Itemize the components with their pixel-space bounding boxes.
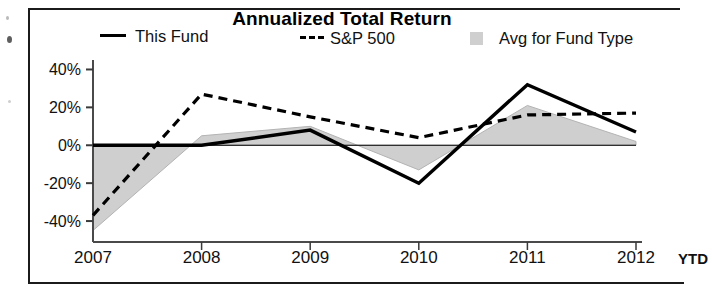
bottom-rule <box>28 282 684 284</box>
x-tick-label: 2009 <box>291 248 329 268</box>
legend-item-sp-500: S&P 500 <box>300 29 395 48</box>
svg-text:40%: 40% <box>49 61 81 78</box>
svg-text:0%: 0% <box>58 137 81 154</box>
svg-text:-40%: -40% <box>44 213 81 230</box>
scan-artifact-dot <box>8 100 11 103</box>
x-tick-label: 2012 <box>617 248 655 268</box>
x-tick-label: 2008 <box>183 248 221 268</box>
legend-label-avg-for-fund-type: Avg for Fund Type <box>499 29 633 48</box>
chart-legend: This Fund S&P 500 Avg for Fund Type <box>30 27 684 51</box>
dashed-line-swatch-icon <box>300 36 324 39</box>
plot-area: 40%20%0%-20%-40% <box>30 52 684 252</box>
svg-text:-20%: -20% <box>44 175 81 192</box>
x-axis-labels: 200720082009201020112012YTD <box>30 248 684 278</box>
svg-text:20%: 20% <box>49 99 81 116</box>
x-axis-ytd-label: YTD <box>678 250 712 267</box>
x-tick-label: 2007 <box>74 248 112 268</box>
x-tick-label: 2011 <box>509 248 546 268</box>
y-tick-labels: 40%20%0%-20%-40% <box>44 61 81 230</box>
gray-square-swatch-icon <box>470 32 483 45</box>
solid-line-swatch-icon <box>100 34 126 37</box>
scan-artifact-dot <box>7 36 12 43</box>
chart-plot-svg: 40%20%0%-20%-40% <box>30 52 684 252</box>
legend-item-avg-for-fund-type: Avg for Fund Type <box>470 29 633 48</box>
legend-item-this-fund: This Fund <box>100 27 208 46</box>
legend-label-this-fund: This Fund <box>135 27 208 46</box>
legend-label-sp-500: S&P 500 <box>330 29 395 48</box>
x-tick-label: 2010 <box>400 248 438 268</box>
